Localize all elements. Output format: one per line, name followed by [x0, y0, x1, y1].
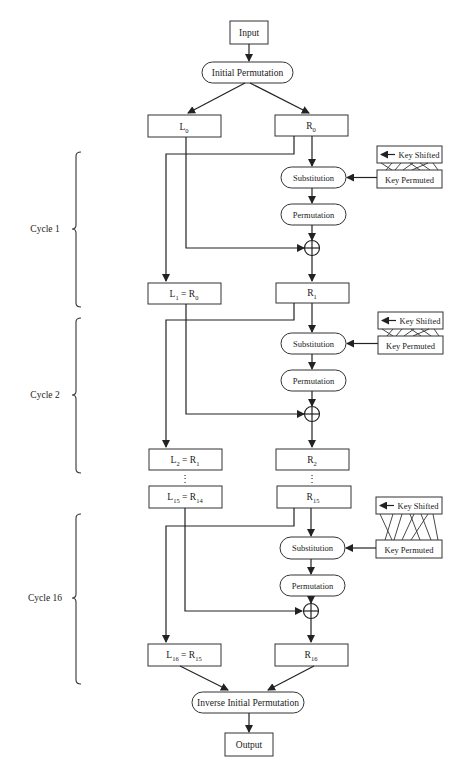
xor-icon — [305, 407, 320, 422]
arrow-r16-to-iip — [268, 666, 314, 690]
key-permuted-label: Key Permuted — [385, 545, 435, 555]
arrow-r1-to-l2 — [166, 303, 294, 447]
cycle-16-label: Cycle 16 — [28, 593, 62, 603]
left-ellipsis: ⋮ — [180, 474, 190, 484]
xor-icon — [304, 604, 319, 619]
substitution-label: Substitution — [293, 173, 335, 183]
output-box: Output — [225, 733, 273, 756]
arrow-l16-to-iip — [180, 666, 228, 690]
input-label: Input — [239, 28, 259, 38]
xor-icon — [305, 241, 320, 256]
cycle-1-label: Cycle 1 — [30, 224, 60, 234]
substitution-label: Substitution — [292, 543, 334, 553]
key-shifted-label: Key Shifted — [399, 150, 441, 160]
cycle-1: Substitution Permutation Key Shifted Key… — [30, 136, 442, 307]
cycle-16-brace — [72, 514, 81, 684]
arrow-ip-to-r0 — [250, 83, 309, 113]
key-shifted-label: Key Shifted — [400, 316, 442, 326]
output-label: Output — [236, 740, 263, 750]
inverse-initial-permutation-node: Inverse Initial Permutation — [192, 692, 304, 713]
permutation-label: Permutation — [293, 210, 335, 220]
arrow-r0-to-l1 — [166, 136, 294, 281]
key-permuted-label: Key Permuted — [385, 175, 435, 185]
key-shifted-label: Key Shifted — [398, 501, 440, 511]
key-permuted-label: Key Permuted — [386, 341, 436, 351]
l0-box: L0 — [148, 115, 221, 137]
arrow-l15-to-xor — [185, 508, 302, 611]
cycle-2-label: Cycle 2 — [30, 390, 60, 400]
cycle-2-brace — [72, 318, 81, 473]
permutation-label: Permutation — [292, 581, 334, 591]
key-schedule: Key Shifted Key Permuted — [347, 312, 443, 354]
key-crossing-lines — [380, 514, 438, 540]
permutation-label: Permutation — [293, 376, 335, 386]
key-crossing-lines — [381, 163, 438, 170]
right-ellipsis: ⋮ — [307, 474, 317, 484]
input-box: Input — [230, 21, 268, 44]
initial-permutation-node: Initial Permutation — [202, 62, 293, 83]
key-schedule: Key Shifted Key Permuted — [346, 497, 442, 558]
initial-permutation-label: Initial Permutation — [212, 68, 284, 78]
arrow-ip-to-l0 — [188, 83, 245, 113]
r0-box: R0 — [275, 115, 348, 136]
cycle-1-brace — [72, 152, 81, 307]
cycle-16: Substitution Permutation Key Shifted Key… — [28, 497, 442, 684]
key-crossing-lines — [382, 329, 439, 336]
cycle-2: Substitution Permutation Key Shifted Key… — [30, 303, 443, 473]
inverse-initial-permutation-label: Inverse Initial Permutation — [197, 698, 299, 708]
des-flowchart: Input Initial Permutation L0 R0 Substitu… — [0, 0, 465, 769]
substitution-label: Substitution — [293, 339, 335, 349]
key-schedule: Key Shifted Key Permuted — [347, 146, 442, 188]
